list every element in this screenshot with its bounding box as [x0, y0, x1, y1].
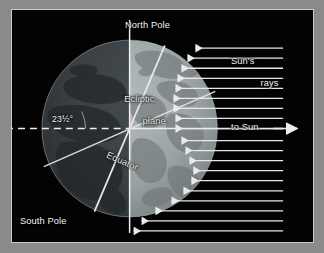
label-ecliptic-line1: Ecliptic — [124, 94, 154, 104]
diagram-stage: North Pole Sun's rays to Sun Ecliptic pl… — [12, 10, 313, 242]
label-ecliptic-plane: Ecliptic plane — [113, 94, 166, 127]
label-suns-rays-line1: Sun's — [231, 56, 254, 66]
globe-night-hemisphere — [42, 40, 217, 217]
figure-frame: North Pole Sun's rays to Sun Ecliptic pl… — [0, 0, 324, 253]
label-to-sun: to Sun — [231, 122, 258, 133]
sun-rays-lower — [134, 141, 284, 231]
globe-landmasses-day — [129, 51, 204, 210]
diagram-panel: North Pole Sun's rays to Sun Ecliptic pl… — [11, 9, 314, 243]
globe-day-hemisphere — [42, 40, 217, 217]
label-suns-rays-line2: rays — [261, 78, 279, 88]
tilt-angle-arc — [82, 111, 86, 128]
label-tilt-angle: 23½° — [52, 114, 73, 125]
rotation-axis — [95, 46, 165, 211]
label-south-pole: South Pole — [20, 216, 67, 227]
label-suns-rays: Sun's rays — [231, 56, 278, 89]
label-north-pole: North Pole — [125, 20, 170, 31]
label-equator: Equator — [105, 150, 140, 173]
globe-outline — [42, 40, 217, 217]
label-ecliptic-line2: plane — [143, 116, 166, 126]
globe-landmasses-night — [47, 64, 126, 214]
